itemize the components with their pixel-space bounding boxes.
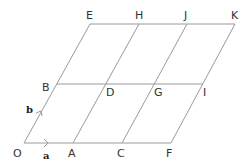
point-label-E: E	[86, 9, 93, 22]
point-label-J: J	[183, 9, 187, 22]
point-label-D: D	[106, 86, 114, 99]
point-label-A: A	[68, 147, 76, 160]
vector-label-b: b	[26, 104, 33, 115]
parallelogram-grid-diagram: O A C F B D G I E H J K a b	[0, 0, 250, 167]
point-label-C: C	[117, 147, 125, 160]
point-label-O: O	[13, 147, 22, 160]
point-label-B: B	[42, 81, 50, 94]
point-label-K: K	[231, 9, 239, 22]
vector-label-a: a	[43, 150, 50, 161]
point-label-F: F	[166, 147, 172, 160]
point-label-H: H	[135, 9, 143, 22]
point-label-I: I	[203, 86, 206, 99]
point-label-G: G	[154, 86, 163, 99]
